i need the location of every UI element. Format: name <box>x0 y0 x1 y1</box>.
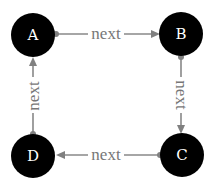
node-label: D <box>27 147 39 165</box>
node-a[interactable]: A <box>11 13 55 57</box>
edge-d-to-a[interactable]: next <box>24 57 43 137</box>
edge-label: next <box>24 81 43 111</box>
arrowhead-icon <box>29 57 37 66</box>
arrowhead-icon <box>56 151 65 159</box>
edge-label: next <box>91 24 121 43</box>
edge-b-to-c[interactable]: next <box>172 54 191 134</box>
arrowhead-icon <box>151 30 160 38</box>
edge-c-to-d[interactable]: next <box>56 145 163 165</box>
node-label: C <box>176 146 187 164</box>
edge-label: next <box>172 80 191 110</box>
node-d[interactable]: D <box>11 134 55 178</box>
arrowhead-icon <box>177 125 185 134</box>
node-c[interactable]: C <box>160 133 204 177</box>
graph-canvas: next next next next A B C D <box>0 0 215 187</box>
edge-a-to-b[interactable]: next <box>53 24 160 44</box>
node-b[interactable]: B <box>159 12 203 56</box>
edge-label: next <box>91 145 121 164</box>
node-label: A <box>27 26 39 44</box>
node-label: B <box>175 25 186 43</box>
